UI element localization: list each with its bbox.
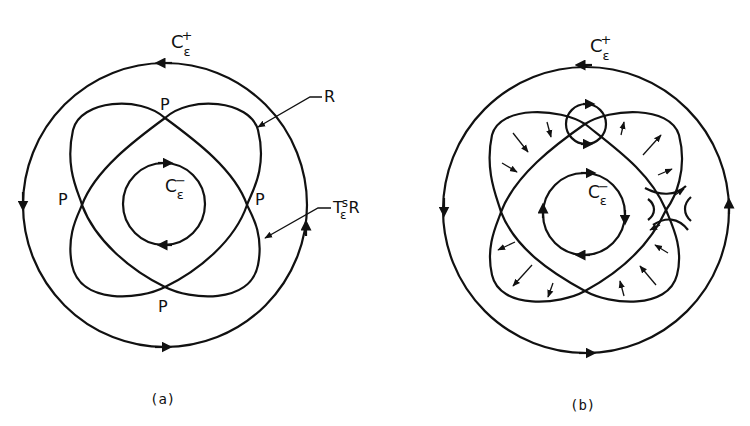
region-r-curve <box>70 104 261 297</box>
inner-orbit-c-minus <box>123 163 205 245</box>
label-c-minus-b: C−ε <box>588 179 609 208</box>
flow-arrow <box>502 163 517 172</box>
label-p-bottom: P <box>158 297 168 316</box>
flow-arrow <box>655 245 668 253</box>
flow-arrow <box>513 265 532 286</box>
flow-arrow <box>548 283 553 297</box>
pointer-r <box>258 97 322 127</box>
label-c-minus: C−ε <box>165 173 186 202</box>
label-p-left: P <box>58 190 68 209</box>
flow-arrow <box>513 133 528 152</box>
image-ts-r-curve <box>70 104 259 297</box>
label-c-plus-b: C+ε <box>590 32 611 63</box>
flow-arrow <box>620 281 624 296</box>
flow-arrow <box>498 242 515 250</box>
caption-b: (b) <box>570 397 595 413</box>
panel-b: C+ε C−ε (b) <box>443 32 729 413</box>
figure-canvas: C+ε C−ε P P P P R TsεR (a) <box>0 0 750 426</box>
hyperbolic-curve-left <box>648 199 654 220</box>
vector-field <box>498 122 684 297</box>
hyperbolic-curve-upper <box>645 186 686 194</box>
pointer-ts-r <box>265 208 331 238</box>
panel-a: C+ε C−ε P P P P R TsεR (a) <box>23 28 360 407</box>
label-r: R <box>324 87 335 106</box>
flow-arrow <box>658 169 672 175</box>
label-ts-r: TsεR <box>332 196 360 222</box>
label-p-right: P <box>255 190 265 209</box>
label-c-plus: C+ε <box>171 28 192 59</box>
flow-arrow <box>643 135 661 155</box>
petal-curve-2 <box>490 112 680 301</box>
flow-arrow <box>640 266 656 285</box>
inner-orbit-c-minus-b <box>543 173 625 255</box>
flow-arrow <box>547 122 551 137</box>
label-p-top: P <box>160 95 170 114</box>
hyperbolic-curve-right <box>685 197 691 221</box>
caption-a: (a) <box>150 391 175 407</box>
flow-arrow <box>621 122 624 135</box>
